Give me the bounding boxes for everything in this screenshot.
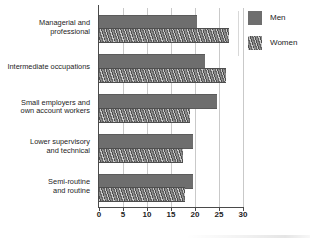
bar-women-1	[99, 68, 226, 83]
bar-chart: Managerial and professional Intermediate…	[0, 0, 310, 238]
category-label-lower-supervisory-and-technical: Lower supervisory and technical	[0, 138, 90, 156]
category-label-managerial-and-professional: Managerial and professional	[0, 19, 90, 37]
x-axis-tick-labels: 051015202530	[99, 210, 243, 224]
plot-area	[99, 8, 243, 207]
x-tick-label-10: 10	[135, 210, 159, 219]
bar-women-4	[99, 187, 185, 202]
x-tick-label-25: 25	[207, 210, 231, 219]
x-tick-label-5: 5	[111, 210, 135, 219]
category-label-intermediate-occupations: Intermediate occupations	[0, 63, 90, 72]
bar-women-3	[99, 148, 183, 163]
bar-women-0	[99, 28, 229, 43]
category-label-semi-routine-and-routine: Semi-routine and routine	[0, 178, 90, 196]
x-tick-label-0: 0	[87, 210, 111, 219]
scan-edge-artifact	[0, 235, 310, 238]
x-tick-label-15: 15	[159, 210, 183, 219]
category-axis-labels: Managerial and professional Intermediate…	[0, 8, 95, 207]
legend-label-women: Women	[270, 38, 297, 47]
legend-swatch-women-icon	[248, 36, 262, 50]
legend-label-men: Men	[270, 13, 286, 22]
bar-women-2	[99, 108, 190, 123]
x-tick-label-30: 30	[231, 210, 255, 219]
legend-separator	[238, 11, 239, 56]
x-tick-label-20: 20	[183, 210, 207, 219]
gridline	[243, 8, 244, 207]
legend-swatch-men-icon	[248, 11, 262, 25]
category-label-small-employers-and-own-account-workers: Small employers and own account workers	[0, 99, 90, 117]
